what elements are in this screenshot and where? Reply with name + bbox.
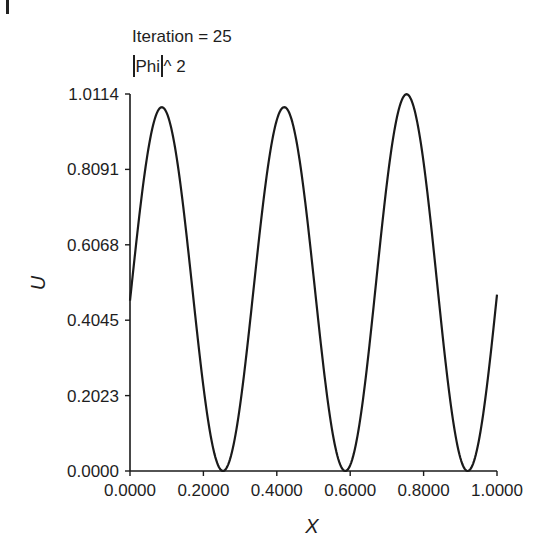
x-tick-label: 0.2000 bbox=[177, 481, 229, 500]
x-tick-label: 1.0000 bbox=[471, 481, 523, 500]
x-tick-label: 0.6000 bbox=[324, 481, 376, 500]
x-ticks: 0.00000.20000.40000.60000.80001.0000 bbox=[104, 471, 523, 500]
y-tick-label: 0.8091 bbox=[67, 160, 119, 179]
data-line bbox=[130, 94, 497, 471]
y-tick-label: 0.2023 bbox=[67, 387, 119, 406]
y-axis-label: U bbox=[27, 275, 49, 290]
y-tick-label: 0.6068 bbox=[67, 236, 119, 255]
x-tick-label: 0.0000 bbox=[104, 481, 156, 500]
y-tick-label: 1.0114 bbox=[68, 85, 119, 104]
y-ticks: 0.00000.20230.40450.60680.80911.0114 bbox=[67, 85, 130, 481]
y-tick-label: 0.0000 bbox=[67, 462, 119, 481]
x-tick-label: 0.8000 bbox=[398, 481, 450, 500]
plot-area: 0.00000.20000.40000.60000.80001.0000 0.0… bbox=[0, 0, 553, 560]
y-tick-label: 0.4045 bbox=[67, 311, 119, 330]
x-axis-label: X bbox=[304, 515, 319, 537]
x-tick-label: 0.4000 bbox=[251, 481, 303, 500]
